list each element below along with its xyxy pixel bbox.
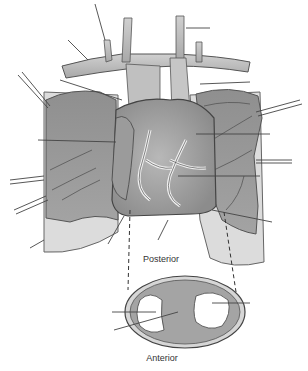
heart-lung-diagram xyxy=(0,0,308,371)
right-lung xyxy=(46,91,118,222)
left-common-carotid xyxy=(122,18,132,62)
posterior-label: Posterior xyxy=(131,254,191,264)
right-ventricle-cavity xyxy=(137,295,164,332)
left-ventricle-cavity xyxy=(194,293,229,328)
pulmonary-branch xyxy=(196,42,202,62)
left-subclavian xyxy=(176,16,184,60)
anterior-label: Anterior xyxy=(132,353,192,363)
